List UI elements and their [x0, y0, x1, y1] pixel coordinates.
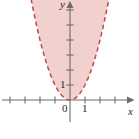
plot-canvas: [0, 0, 139, 139]
parabola-region-figure: y x 0 1 1: [0, 0, 139, 139]
origin-label: 0: [62, 103, 68, 114]
y-axis-tick-label-one: 1: [60, 79, 66, 90]
x-axis-arrow-icon: [127, 97, 135, 104]
x-axis-tick-label-one: 1: [82, 103, 88, 114]
x-axis-label: x: [128, 106, 133, 117]
y-axis-label: y: [60, 0, 65, 10]
